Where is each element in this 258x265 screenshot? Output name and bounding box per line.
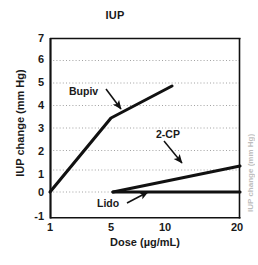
annotation-arrow-2cp — [164, 141, 182, 163]
edge-artifact-text: IUP change (mm Hg) — [246, 134, 255, 212]
plot-area — [0, 0, 258, 265]
series-line-2cp — [113, 166, 240, 192]
chart-screenshot: IUP IUP change (mm Hg) Dose (µg/mL) 7 6 … — [0, 0, 258, 265]
series-line-bupiv — [50, 86, 172, 192]
neighbor-figure-edge-artifact: IUP change (mm Hg) — [244, 60, 258, 220]
annotation-arrow-bupiv — [106, 89, 121, 109]
annotation-arrow-lido — [127, 192, 148, 203]
